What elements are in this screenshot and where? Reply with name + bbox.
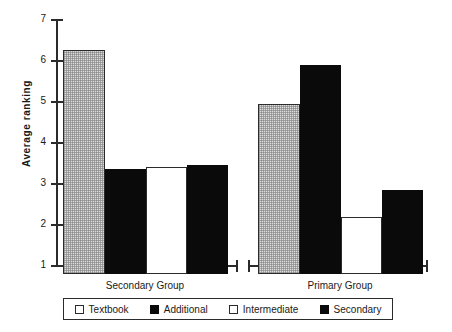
legend-label-intermediate: Intermediate: [243, 304, 299, 315]
legend: Textbook Additional Intermediate Seconda…: [63, 298, 393, 320]
y-tick-label-4: 4: [28, 137, 46, 147]
legend-label-textbook: Textbook: [89, 304, 129, 315]
bar-secondary-additional: [105, 169, 146, 274]
bar-secondary-intermediate: [146, 167, 187, 274]
legend-label-secondary: Secondary: [334, 304, 382, 315]
y-tick-label-5: 5: [28, 96, 46, 106]
y-tick-6: [51, 60, 63, 62]
x-tick-right-end: [426, 260, 428, 272]
y-tick-3: [51, 183, 63, 185]
y-tick-label-7: 7: [28, 14, 46, 24]
bar-primary-intermediate: [341, 217, 382, 274]
y-tick-1: [51, 265, 63, 267]
bar-secondary-secondary: [187, 165, 228, 274]
y-axis-title: Average ranking: [21, 54, 32, 194]
bar-primary-textbook: [258, 104, 300, 274]
legend-swatch-secondary-icon: [320, 305, 329, 314]
legend-label-additional: Additional: [164, 304, 208, 315]
legend-item-textbook: Textbook: [75, 304, 129, 315]
legend-swatch-textbook-icon: [75, 305, 84, 314]
y-tick-2: [51, 224, 63, 226]
y-tick-7: [51, 19, 63, 21]
y-tick-4: [51, 142, 63, 144]
legend-item-secondary: Secondary: [320, 304, 382, 315]
y-tick-label-2: 2: [28, 219, 46, 229]
legend-item-additional: Additional: [150, 304, 208, 315]
x-tick-break-right: [248, 260, 250, 272]
legend-item-intermediate: Intermediate: [229, 304, 299, 315]
y-tick-label-6: 6: [28, 55, 46, 65]
bar-primary-secondary: [382, 190, 423, 274]
y-tick-label-1: 1: [28, 260, 46, 270]
legend-swatch-intermediate-icon: [229, 305, 238, 314]
group-label-primary: Primary Group: [280, 280, 400, 291]
y-tick-5: [51, 101, 63, 103]
y-tick-label-3: 3: [28, 178, 46, 188]
bar-chart: Average ranking 7 6 5 4 3 2 1: [0, 0, 452, 332]
x-tick-break-left: [236, 260, 238, 272]
legend-swatch-additional-icon: [150, 305, 159, 314]
bar-primary-additional: [300, 65, 341, 274]
group-label-secondary: Secondary Group: [85, 280, 205, 291]
bar-secondary-textbook: [63, 50, 105, 274]
plot-area: 7 6 5 4 3 2 1 Secondary Group Primary Gr…: [56, 12, 428, 274]
